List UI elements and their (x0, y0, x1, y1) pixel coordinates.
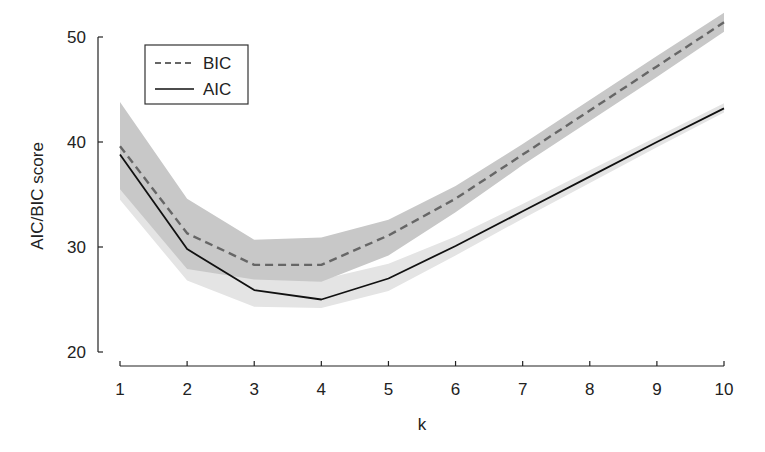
x-tick-label: 7 (518, 380, 527, 399)
x-tick-label: 2 (182, 380, 191, 399)
y-tick-label: 40 (67, 133, 86, 152)
x-tick-label: 6 (451, 380, 460, 399)
legend-box (145, 45, 248, 104)
x-tick-label: 1 (115, 380, 124, 399)
legend: BIC AIC (145, 45, 248, 104)
y-tick-label: 20 (67, 343, 86, 362)
y-axis-label: AIC/BIC score (28, 142, 47, 250)
legend-label-aic: AIC (203, 80, 231, 99)
x-tick-label: 10 (715, 380, 734, 399)
x-tick-label: 3 (249, 380, 258, 399)
legend-label-bic: BIC (203, 54, 231, 73)
y-tick-label: 30 (67, 238, 86, 257)
x-tick-label: 5 (384, 380, 393, 399)
x-tick-label: 8 (585, 380, 594, 399)
chart: 20304050 12345678910 k AIC/BIC score BIC… (0, 0, 765, 452)
x-tick-label: 4 (317, 380, 326, 399)
y-tick-label: 50 (67, 28, 86, 47)
x-axis: 12345678910 (115, 361, 733, 399)
y-axis: 20304050 (67, 28, 103, 362)
x-tick-label: 9 (652, 380, 661, 399)
x-axis-label: k (418, 415, 427, 434)
